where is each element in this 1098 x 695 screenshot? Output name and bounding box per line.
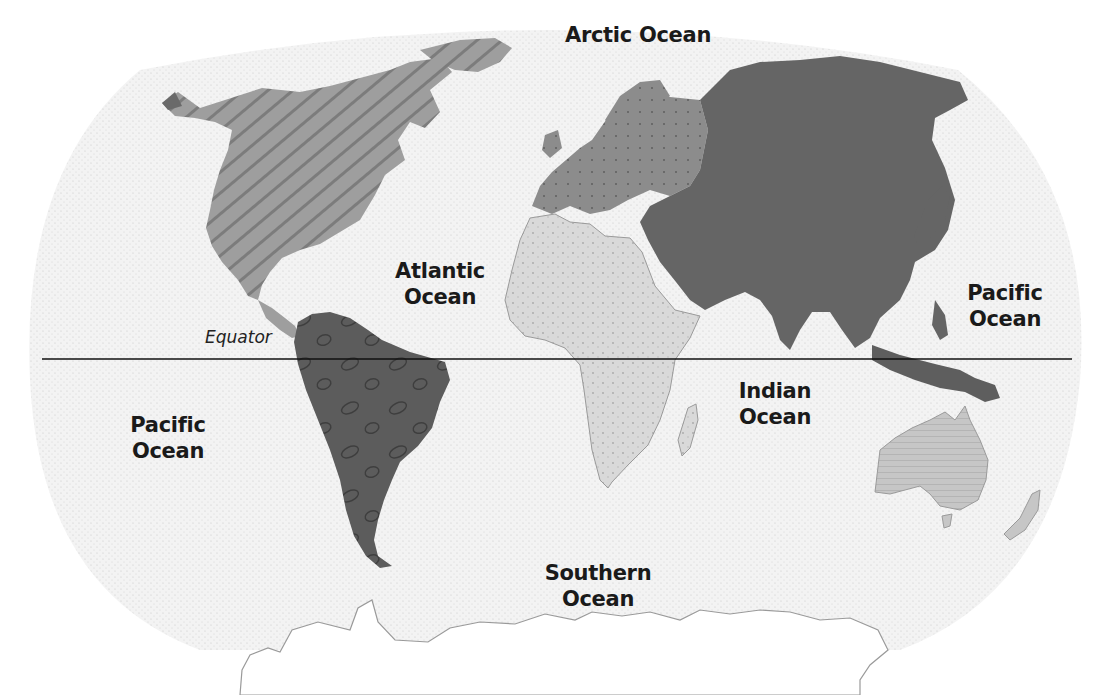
southern-line1: Southern [538, 560, 658, 586]
pacific-ocean-east-label: Pacific Ocean [955, 280, 1055, 332]
indian-line1: Indian [725, 378, 825, 404]
pacific-ocean-west-label: Pacific Ocean [118, 412, 218, 464]
atlantic-line2: Ocean [385, 284, 495, 310]
southern-line2: Ocean [538, 586, 658, 612]
pacific-east-line2: Ocean [955, 306, 1055, 332]
pacific-west-line1: Pacific [118, 412, 218, 438]
atlantic-line1: Atlantic [385, 258, 495, 284]
indian-line2: Ocean [725, 404, 825, 430]
arctic-ocean-text: Arctic Ocean [565, 23, 711, 47]
world-map: Arctic Ocean Atlantic Ocean Pacific Ocea… [0, 0, 1098, 695]
pacific-west-line2: Ocean [118, 438, 218, 464]
tasmania-shape [942, 514, 952, 528]
southern-ocean-label: Southern Ocean [538, 560, 658, 612]
indian-ocean-label: Indian Ocean [725, 378, 825, 430]
arctic-ocean-label: Arctic Ocean [548, 22, 728, 48]
equator-label: Equator [205, 327, 272, 347]
pacific-east-line1: Pacific [955, 280, 1055, 306]
atlantic-ocean-label: Atlantic Ocean [385, 258, 495, 310]
